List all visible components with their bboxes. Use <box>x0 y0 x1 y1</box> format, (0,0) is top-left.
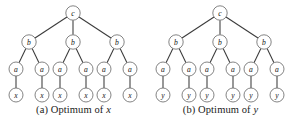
node-leaf-4-b: y <box>226 88 240 102</box>
node-a-3-label-a: a <box>58 65 62 74</box>
panel-a-caption-variable: x <box>106 104 111 115</box>
node-a-3-label-b: a <box>205 65 209 74</box>
node-b-3-b: b <box>257 35 271 49</box>
figure-container: cbbbaaaaaaxxxxxx (a) Optimum of x cbbbaa… <box>0 0 294 126</box>
node-b-3-label-a: b <box>115 38 119 47</box>
node-b-2-label-b: b <box>218 38 222 47</box>
node-root-c-b: c <box>213 6 227 20</box>
panel-a-caption-prefix: (a) Optimum of <box>36 104 106 115</box>
node-a-2-b: a <box>182 62 196 76</box>
node-leaf-2-label-a: x <box>39 91 44 100</box>
node-b-2-b: b <box>213 35 227 49</box>
tree-diagram-a: cbbbaaaaaaxxxxxx <box>0 0 147 108</box>
node-a-5-a: a <box>97 62 111 76</box>
node-a-1-a: a <box>9 62 23 76</box>
node-a-1-b: a <box>156 62 170 76</box>
node-leaf-1-a: x <box>9 88 23 102</box>
edge-b-3-to-a-6 <box>267 48 274 62</box>
node-b-1-label-b: b <box>174 38 178 47</box>
panel-a-caption: (a) Optimum of x <box>0 104 147 115</box>
node-a-2-a: a <box>35 62 49 76</box>
node-a-6-b: a <box>270 62 284 76</box>
node-leaf-3-label-b: y <box>204 91 209 100</box>
edge-b-1-to-a-1 <box>19 48 26 62</box>
node-leaf-3-label-a: x <box>57 91 62 100</box>
figure-panel-b: cbbbaaaaaayyyyyy (b) Optimum of y <box>147 0 294 126</box>
node-leaf-3-b: y <box>200 88 214 102</box>
node-b-2-a: b <box>66 35 80 49</box>
edge-root-to-b-3 <box>79 17 111 38</box>
node-leaf-5-label-b: y <box>248 91 253 100</box>
node-leaf-1-label-a: x <box>13 91 18 100</box>
node-a-5-b: a <box>244 62 258 76</box>
node-b-2-label-a: b <box>71 38 75 47</box>
figure-panel-a: cbbbaaaaaaxxxxxx (a) Optimum of x <box>0 0 147 126</box>
edge-b-1-to-a-2 <box>179 48 186 62</box>
node-a-2-label-a: a <box>40 65 44 74</box>
node-b-1-b: b <box>169 35 183 49</box>
node-leaf-5-b: y <box>244 88 258 102</box>
edge-b-3-to-a-5 <box>107 48 114 62</box>
edge-b-1-to-a-1 <box>166 48 173 62</box>
node-leaf-5-label-a: x <box>101 91 106 100</box>
node-leaf-4-label-a: x <box>83 91 88 100</box>
node-leaf-2-b: y <box>182 88 196 102</box>
node-leaf-2-a: x <box>35 88 49 102</box>
node-leaf-6-b: y <box>270 88 284 102</box>
node-a-4-label-b: a <box>231 65 235 74</box>
node-leaf-4-a: x <box>79 88 93 102</box>
edge-b-2-to-a-4 <box>223 48 230 62</box>
node-a-6-label-b: a <box>275 65 279 74</box>
node-a-4-b: a <box>226 62 240 76</box>
node-a-1-label-a: a <box>14 65 18 74</box>
node-leaf-6-label-b: y <box>274 91 279 100</box>
edge-root-to-b-1 <box>182 17 214 38</box>
edge-b-3-to-a-5 <box>254 48 261 62</box>
panel-b-caption-variable: y <box>253 104 258 115</box>
node-leaf-6-a: x <box>123 88 137 102</box>
node-leaf-6-label-a: x <box>127 91 132 100</box>
node-a-6-a: a <box>123 62 137 76</box>
edge-b-1-to-a-2 <box>32 48 39 62</box>
node-leaf-5-a: x <box>97 88 111 102</box>
node-a-2-label-b: a <box>187 65 191 74</box>
node-leaf-1-b: y <box>156 88 170 102</box>
edge-b-2-to-a-3 <box>210 48 217 62</box>
edge-b-3-to-a-6 <box>120 48 127 62</box>
node-leaf-4-label-b: y <box>230 91 235 100</box>
tree-diagram-b: cbbbaaaaaayyyyyy <box>147 0 294 108</box>
node-root-c-a: c <box>66 6 80 20</box>
panel-b-caption: (b) Optimum of y <box>147 104 294 115</box>
node-a-3-a: a <box>53 62 67 76</box>
node-a-4-a: a <box>79 62 93 76</box>
node-a-4-label-a: a <box>84 65 88 74</box>
node-b-1-a: b <box>22 35 36 49</box>
node-b-3-label-b: b <box>262 38 266 47</box>
edge-root-to-b-1 <box>35 17 67 38</box>
node-a-1-label-b: a <box>161 65 165 74</box>
node-leaf-2-label-b: y <box>186 91 191 100</box>
node-a-5-label-a: a <box>102 65 106 74</box>
panel-b-caption-prefix: (b) Optimum of <box>183 104 254 115</box>
node-a-3-b: a <box>200 62 214 76</box>
edge-b-2-to-a-4 <box>76 48 83 62</box>
node-a-5-label-b: a <box>249 65 253 74</box>
node-b-3-a: b <box>110 35 124 49</box>
node-a-6-label-a: a <box>128 65 132 74</box>
node-leaf-1-label-b: y <box>160 91 165 100</box>
edge-root-to-b-3 <box>226 17 258 38</box>
node-b-1-label-a: b <box>27 38 31 47</box>
node-leaf-3-a: x <box>53 88 67 102</box>
edge-b-2-to-a-3 <box>63 48 70 62</box>
